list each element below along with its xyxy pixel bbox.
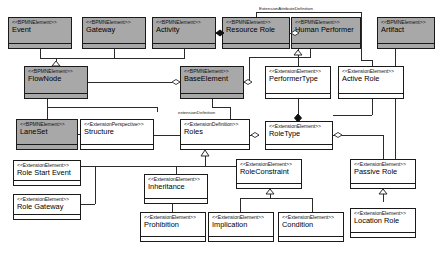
class-compartment-human-performer [292,43,360,48]
class-box-flownode[interactable]: <<BPMNElement>>FlowNode [24,66,88,99]
class-name-role-start-event: Role Start Event [14,168,80,180]
class-name-roleconstraint: RoleConstraint [237,167,301,183]
class-stereotype-role-gateway: <<ExtensionElement>> [14,195,80,202]
class-box-artifact[interactable]: <<BPMNElement>>Artifact [377,17,435,49]
class-stereotype-structure: <<ExtensionPerspective>> [81,120,153,127]
class-box-active-role[interactable]: <<ExtensionElement>>Active Role [338,66,404,99]
edge-flownode-baseelement [88,82,172,83]
class-box-role-start-event[interactable]: <<ExtensionElement>>Role Start Event [13,160,81,186]
class-box-gateway[interactable]: <<BPMNElement>>Gateway [82,17,146,49]
class-compartment-roletype [266,144,332,149]
class-compartment-condition [279,236,343,241]
class-compartment-role-gateway [14,214,80,219]
edge-inheritance-prohibition [172,204,173,212]
edge-label-extensionattributedefinition: ExtensionAttributeDefinition [258,6,314,11]
class-compartment-resource-role [223,43,289,48]
edge-roles-gen-stem [205,156,206,166]
class-box-roleconstraint[interactable]: <<ExtensionElement>>RoleConstraint [236,159,302,189]
class-stereotype-gateway: <<BPMNElement>> [83,18,145,25]
edge-base-roles-elbow [212,107,230,108]
class-box-baseelement[interactable]: <<BPMNElement>>BaseElement [180,66,244,99]
class-stereotype-active-role: <<ExtensionElement>> [339,67,403,74]
class-name-activity: Activity [153,25,215,43]
class-compartment-performertype [266,93,330,98]
class-name-structure: Structure [81,127,153,144]
edge-passiverole-locationrole [383,189,384,202]
edge-event-flownode [40,49,41,58]
aggregation-diamond-baseelement [172,80,180,85]
class-stereotype-artifact: <<BPMNElement>> [378,18,434,25]
class-box-event[interactable]: <<BPMNElement>>Event [8,17,72,49]
class-stereotype-passive-role: <<ExtensionElement>> [351,160,415,167]
class-name-laneset: LaneSet [17,127,77,144]
class-compartment-event [9,43,71,48]
class-stereotype-condition: <<ExtensionElement>> [279,213,343,220]
class-stereotype-baseelement: <<BPMNElement>> [181,67,243,74]
class-box-performertype[interactable]: <<ExtensionElement>>PerformerType [265,66,331,99]
uml-class-diagram: ExtensionAttributeDefinition extensionDe… [0,0,445,257]
class-name-roletype: RoleType [266,129,332,144]
class-box-prohibition[interactable]: <<ExtensionElement>>Prohibition [140,212,206,242]
class-stereotype-roles: <<ExtensionDefinition>> [181,120,249,127]
class-box-laneset[interactable]: <<BPMNElement>>LaneSet [16,119,78,150]
class-stereotype-location-role: <<ExtensionElement>> [351,209,415,216]
class-stereotype-role-start-event: <<ExtensionElement>> [14,161,80,168]
edge-extattrdef-top [256,12,361,13]
edge-humanperformer-base-stem [310,49,311,57]
class-compartment-implication [209,236,273,241]
edge-base-roles-stem [212,99,213,107]
class-name-condition: Condition [279,220,343,236]
class-box-roles[interactable]: <<ExtensionDefinition>>Roles [180,119,250,150]
class-stereotype-human-performer: <<BPMNElement>> [292,18,360,25]
edge-roleconstraint-down [270,189,271,198]
class-box-resource-role[interactable]: <<BPMNElement>>Resource Role [222,17,290,49]
edge-inheritance-stem [176,166,177,174]
edge-extattrdef-to-activerole [361,60,372,61]
class-box-condition[interactable]: <<ExtensionElement>>Condition [278,212,344,242]
class-name-active-role: Active Role [339,74,403,93]
class-compartment-artifact [378,43,434,48]
edge-base-right-bus [249,57,311,58]
class-stereotype-resource-role: <<BPMNElement>> [223,18,289,25]
class-stereotype-activity: <<BPMNElement>> [153,18,215,25]
class-box-activity[interactable]: <<BPMNElement>>Activity [152,17,216,49]
class-stereotype-event: <<BPMNElement>> [9,18,71,25]
class-name-prohibition: Prohibition [141,220,205,236]
class-compartment-active-role [339,93,403,98]
edge-implication-stem [240,198,241,212]
class-box-roletype[interactable]: <<ExtensionElement>>RoleType [265,121,333,150]
class-name-artifact: Artifact [378,25,434,43]
class-name-implication: Implication [209,220,273,236]
class-name-location-role: Location Role [351,216,415,232]
class-name-performertype: PerformerType [266,74,330,93]
edge-roletype-passiverole-run [342,135,383,136]
class-compartment-gateway [83,43,145,48]
class-compartment-flownode [25,93,87,98]
class-box-inheritance[interactable]: <<ExtensionElement>>Inheritance [144,174,208,204]
class-compartment-location-role [351,232,415,237]
class-name-event: Event [9,25,71,43]
edge-activerole-to-roletype [333,115,372,116]
edge-performertype-roletype [298,99,299,114]
class-box-human-performer[interactable]: <<BPMNElement>>Human Performer [291,17,361,49]
class-box-implication[interactable]: <<ExtensionElement>>Implication [208,212,274,242]
class-compartment-roles [181,144,249,149]
class-stereotype-prohibition: <<ExtensionElement>> [141,213,205,220]
class-box-role-gateway[interactable]: <<ExtensionElement>>Role Gateway [13,194,81,220]
class-stereotype-laneset: <<BPMNElement>> [17,120,77,127]
edge-roletype-passiverole-stub [333,135,342,136]
edge-structure-roles [154,135,180,136]
edge-rolegateway-up [95,166,96,204]
edge-flownode-bus [40,58,185,59]
class-box-location-role[interactable]: <<ExtensionElement>>Location Role [350,208,416,238]
class-name-baseelement: BaseElement [181,74,243,93]
class-compartment-activity [153,43,215,48]
class-name-role-gateway: Role Gateway [14,202,80,214]
class-box-passive-role[interactable]: <<ExtensionElement>>Passive Role [350,159,416,189]
class-box-structure[interactable]: <<ExtensionPerspective>>Structure [80,119,154,150]
class-name-passive-role: Passive Role [351,167,415,183]
edge-activerole-drop [372,99,373,115]
edge-base-roles-drop [230,107,231,119]
edge-laneset-stem [47,107,48,119]
edge-condition-stem [312,198,313,212]
